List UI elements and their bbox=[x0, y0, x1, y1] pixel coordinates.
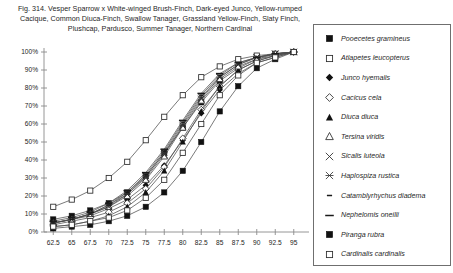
star-cross-icon bbox=[323, 169, 336, 182]
legend-item[interactable]: Tersina viridis bbox=[314, 127, 450, 147]
short-dash-icon bbox=[323, 189, 336, 202]
legend-item-label: Sicalis luteola bbox=[341, 152, 385, 160]
caption-line-3: Plushcap, Pardusco, Summer Tanager, Nort… bbox=[0, 24, 320, 34]
legend-item-label: Piranga rubra bbox=[341, 231, 384, 239]
x-axis-tick-label: 95 bbox=[290, 239, 298, 246]
y-axis-tick-label: 60% bbox=[25, 120, 38, 127]
legend-item-label: Haplospiza rustica bbox=[341, 172, 399, 180]
legend-item-label: Junco hyemalis bbox=[341, 74, 390, 82]
x-axis-tick-label: 75 bbox=[142, 239, 150, 246]
chart-series bbox=[50, 49, 297, 226]
x-axis-tick-label: 77.5 bbox=[158, 239, 171, 246]
x-axis-tick-label: 87.5 bbox=[232, 239, 245, 246]
x-axis-tick-label: 82.5 bbox=[195, 239, 208, 246]
y-axis-tick-label: 20% bbox=[25, 192, 38, 199]
chart-legend: Pooecetes gramineusAtlapetes leucopterus… bbox=[313, 24, 451, 266]
legend-item-label: Cacicus cela bbox=[341, 94, 381, 102]
legend-item[interactable]: Nephelomis oneilli bbox=[314, 205, 450, 225]
chart-plot-area: 0%10%20%30%40%50%60%70%80%90%100%62.5656… bbox=[0, 40, 313, 273]
long-dash-icon bbox=[323, 209, 336, 222]
open-triangle-icon bbox=[323, 130, 336, 143]
filled-triangle-icon bbox=[323, 111, 336, 124]
x-axis-tick-label: 80 bbox=[179, 239, 187, 246]
x-axis-tick-label: 90 bbox=[253, 239, 261, 246]
y-axis-tick-label: 0% bbox=[28, 228, 38, 235]
x-axis-tick-label: 70 bbox=[105, 239, 113, 246]
x-axis-tick-label: 85 bbox=[216, 239, 224, 246]
legend-item[interactable]: Piranga rubra bbox=[314, 225, 450, 245]
legend-item-label: Pooecetes gramineus bbox=[341, 35, 410, 43]
chart-series bbox=[50, 49, 297, 226]
x-axis-tick-label: 67.5 bbox=[84, 239, 97, 246]
legend-item[interactable]: Cardinalis cardinalis bbox=[314, 245, 450, 265]
legend-item-label: Cardinalis cardinalis bbox=[341, 250, 405, 258]
y-axis-tick-label: 100% bbox=[21, 48, 38, 55]
legend-item[interactable]: Atlapetes leucopterus bbox=[314, 49, 450, 69]
chart-series bbox=[51, 49, 297, 209]
legend-item[interactable]: Diuca diuca bbox=[314, 107, 450, 127]
y-axis-tick-label: 80% bbox=[25, 84, 38, 91]
x-axis-tick-label: 72.5 bbox=[121, 239, 134, 246]
legend-item-label: Diuca diuca bbox=[341, 113, 378, 121]
x-cross-icon bbox=[323, 150, 336, 163]
y-axis-tick-label: 40% bbox=[25, 156, 38, 163]
y-axis-tick-label: 30% bbox=[25, 174, 38, 181]
caption-line-2: Cacique, Common Diuca-Finch, Swallow Tan… bbox=[0, 14, 320, 24]
open-square-icon bbox=[323, 248, 336, 261]
x-axis-tick-label: 62.5 bbox=[47, 239, 60, 246]
filled-square-icon bbox=[323, 32, 336, 45]
chart-series bbox=[50, 49, 298, 226]
chart-series bbox=[51, 49, 297, 222]
legend-item-label: Atlapetes leucopterus bbox=[341, 54, 410, 62]
y-axis-tick-label: 90% bbox=[25, 66, 38, 73]
y-axis-tick-label: 70% bbox=[25, 102, 38, 109]
legend-item[interactable]: Catamblyrhychus diadema bbox=[314, 186, 450, 206]
filled-square-icon bbox=[323, 228, 336, 241]
y-axis-tick-label: 10% bbox=[25, 210, 38, 217]
x-axis-tick-label: 65 bbox=[68, 239, 76, 246]
caption-line-1: Fig. 314. Vesper Sparrow x White-winged … bbox=[0, 4, 320, 14]
legend-item[interactable]: Sicalis luteola bbox=[314, 147, 450, 167]
filled-diamond-icon bbox=[323, 71, 336, 84]
legend-item-label: Tersina viridis bbox=[341, 133, 384, 141]
chart-svg: 0%10%20%30%40%50%60%70%80%90%100%62.5656… bbox=[0, 40, 313, 273]
chart-series bbox=[51, 49, 297, 229]
x-axis-tick-label: 92.5 bbox=[269, 239, 282, 246]
legend-item[interactable]: Junco hyemalis bbox=[314, 68, 450, 88]
figure-caption: Fig. 314. Vesper Sparrow x White-winged … bbox=[0, 4, 320, 34]
legend-item[interactable]: Haplospiza rustica bbox=[314, 166, 450, 186]
chart-series bbox=[51, 52, 296, 223]
legend-item-label: Nephelomis oneilli bbox=[341, 211, 399, 219]
legend-item[interactable]: Cacicus cela bbox=[314, 88, 450, 108]
legend-item-label: Catamblyrhychus diadema bbox=[341, 192, 425, 200]
y-axis-tick-label: 50% bbox=[25, 138, 38, 145]
legend-item[interactable]: Pooecetes gramineus bbox=[314, 29, 450, 49]
open-diamond-icon bbox=[323, 91, 336, 104]
open-square-icon bbox=[323, 52, 336, 65]
